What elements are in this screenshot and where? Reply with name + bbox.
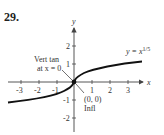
y-tick-label: 1	[66, 60, 70, 69]
vert-tan-leader	[62, 70, 72, 80]
x-tick-label: -3	[16, 86, 23, 95]
inflection-label: Infl	[84, 104, 96, 113]
point-coordinates-label: (0, 0)	[84, 95, 102, 104]
x-axis-label: x	[146, 78, 151, 87]
y-tick-label: -1	[63, 96, 70, 105]
problem-number: 29.	[4, 10, 19, 24]
y-axis-label: y	[71, 17, 76, 26]
y-tick-label: -2	[63, 114, 70, 123]
vert-tan-label-line1: Vert tan	[34, 55, 59, 64]
curve-label: y = x1/5	[125, 46, 150, 56]
graph-figure: 29. x y -3 -2 -1 1 2 3 2 1 -1 -2 y = x1/…	[0, 0, 164, 135]
inflection-point	[72, 80, 77, 85]
point-leader	[76, 84, 84, 93]
x-tick-label: -2	[34, 86, 41, 95]
x-tick-label: 3	[126, 86, 130, 95]
vert-tan-label-line2: at x = 0	[37, 64, 61, 73]
x-tick-label: 1	[90, 86, 94, 95]
y-tick-label: 2	[66, 42, 70, 51]
x-tick-label: 2	[108, 86, 112, 95]
